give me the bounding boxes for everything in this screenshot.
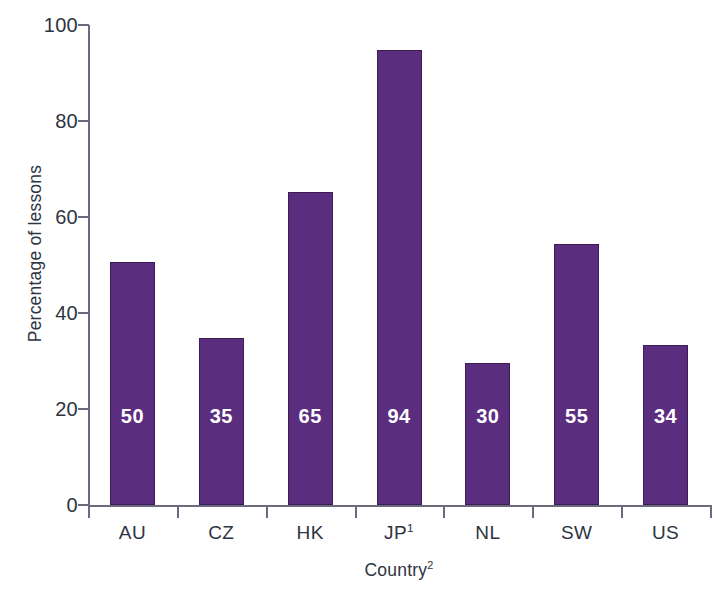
x-axis-tick-mark (88, 505, 90, 518)
x-axis-title-text: Country (365, 560, 428, 580)
x-axis-tick-mark (710, 505, 712, 518)
x-axis-line (88, 505, 710, 507)
x-axis-tick-mark (266, 505, 268, 518)
x-axis-category-label: SW (532, 522, 621, 544)
x-axis-category-label: US (621, 522, 710, 544)
bar-value-label: 34 (644, 405, 687, 428)
x-axis-category-text: SW (561, 522, 592, 543)
x-axis-category-label: AU (88, 522, 177, 544)
x-axis-category-label: NL (443, 522, 532, 544)
y-axis-tick-label: 40 (32, 302, 78, 325)
x-axis-tick-mark (177, 505, 179, 518)
bar-chart: Percentage of lessons 020406080100 50356… (0, 0, 715, 597)
x-axis-category-text: JP (384, 522, 407, 543)
bar: 65 (288, 192, 333, 505)
x-axis-category-label: JP1 (355, 522, 444, 544)
bar-value-label: 35 (200, 405, 243, 428)
y-axis-tick-label: 0 (32, 494, 78, 517)
y-axis-line (88, 25, 90, 506)
x-axis-category-label: CZ (177, 522, 266, 544)
x-axis-category-text: HK (297, 522, 324, 543)
y-axis-tick-label: 80 (32, 110, 78, 133)
bar-value-label: 55 (555, 405, 598, 428)
x-axis-category-text: NL (475, 522, 500, 543)
bar: 50 (110, 262, 155, 505)
x-axis-category-text: US (652, 522, 679, 543)
bar: 35 (199, 338, 244, 505)
bar: 55 (554, 244, 599, 505)
x-axis-tick-mark (532, 505, 534, 518)
x-axis-title-superscript: 2 (427, 559, 433, 571)
y-axis-tick-label: 60 (32, 206, 78, 229)
x-axis-category-label: HK (266, 522, 355, 544)
bar-value-label: 94 (378, 405, 421, 428)
x-axis-category-text: CZ (208, 522, 234, 543)
x-axis-tick-mark (443, 505, 445, 518)
y-axis-tick-label: 100 (32, 14, 78, 37)
bar-value-label: 65 (289, 405, 332, 428)
x-axis-category-text: AU (119, 522, 146, 543)
x-axis-tick-mark (621, 505, 623, 518)
x-axis-tick-mark (355, 505, 357, 518)
bar: 34 (643, 345, 688, 505)
bar: 30 (465, 363, 510, 505)
bar: 94 (377, 50, 422, 505)
x-axis-category-superscript: 1 (407, 521, 414, 534)
x-axis-title: Country2 (88, 560, 710, 581)
y-axis-tick-label: 20 (32, 398, 78, 421)
bar-value-label: 30 (466, 405, 509, 428)
bar-value-label: 50 (111, 405, 154, 428)
